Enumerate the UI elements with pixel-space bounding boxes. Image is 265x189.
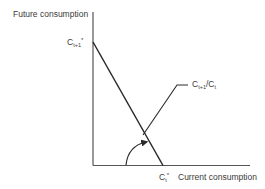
angle-arc: [126, 142, 146, 165]
slope-label: Ct+1/Ct: [192, 80, 216, 91]
y-intercept-label: Ct+1*: [67, 37, 83, 49]
diagram-canvas: [0, 0, 265, 189]
x-intercept-label: Ct*: [159, 172, 169, 184]
budget-line: [93, 42, 163, 166]
y-axis-label: Future consumption: [13, 10, 88, 19]
slope-leader-line: [143, 85, 188, 135]
x-axis-label: Current consumption: [178, 173, 257, 182]
